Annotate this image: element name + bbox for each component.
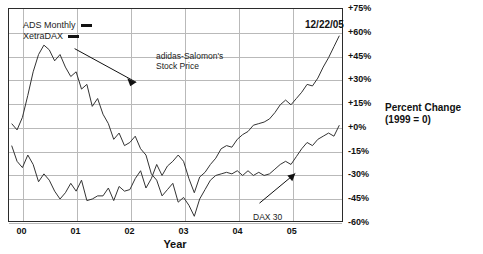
y-axis-title: Percent Change (1999 = 0)	[385, 102, 461, 126]
y-axis-tick-label: +0%	[348, 122, 366, 132]
x-axis-tick-label: 03	[179, 226, 189, 236]
x-axis-tick-label: 00	[16, 226, 26, 236]
gridline-horizontal	[9, 223, 342, 224]
annotation-ads-line1: adidas-Salomon's	[156, 51, 223, 61]
y-axis-tick-label: +30%	[348, 74, 371, 84]
y-axis-tick-label: +75%	[348, 3, 371, 13]
legend-item-xetradax: XetraDAX	[23, 31, 92, 42]
x-axis-title: Year	[163, 238, 186, 250]
annotation-ads-line2: Stock Price	[156, 61, 223, 71]
y-axis-tick-label: +45%	[348, 51, 371, 61]
annotation-arrow-dax	[259, 173, 295, 203]
y-axis-tick-label: +15%	[348, 98, 371, 108]
y-axis-title-line2: (1999 = 0)	[385, 114, 461, 126]
legend-line-marker-dax	[68, 35, 79, 38]
y-axis-tick-label: -45%	[348, 193, 369, 203]
chart-figure: ADS Monthly XetraDAX adidas-Salomon's St…	[0, 0, 483, 254]
y-axis-tick-label: -30%	[348, 169, 369, 179]
x-axis-tick-label: 02	[125, 226, 135, 236]
clipped-header-text	[8, 0, 128, 4]
legend-label-ads-monthly: ADS Monthly	[23, 20, 76, 31]
x-axis-tick-label: 01	[71, 226, 81, 236]
annotation-dax-30: DAX 30	[253, 212, 282, 222]
y-axis-tick-label: -60%	[348, 217, 369, 227]
legend: ADS Monthly XetraDAX	[23, 20, 92, 42]
legend-line-marker-ads	[81, 24, 92, 27]
legend-label-xetradax: XetraDAX	[23, 31, 63, 42]
x-axis-tick-label: 04	[233, 226, 243, 236]
date-stamp: 12/22/05	[305, 19, 344, 30]
y-axis-tick-label: -15%	[348, 146, 369, 156]
annotation-arrow-ads	[75, 49, 137, 87]
y-axis-title-line1: Percent Change	[385, 102, 461, 114]
legend-item-ads-monthly: ADS Monthly	[23, 20, 92, 31]
x-axis-tick-label: 05	[287, 226, 297, 236]
annotation-ads-stock-price: adidas-Salomon's Stock Price	[156, 51, 223, 71]
plot-area: ADS Monthly XetraDAX adidas-Salomon's St…	[8, 8, 343, 222]
y-axis-tick-label: +60%	[348, 27, 371, 37]
